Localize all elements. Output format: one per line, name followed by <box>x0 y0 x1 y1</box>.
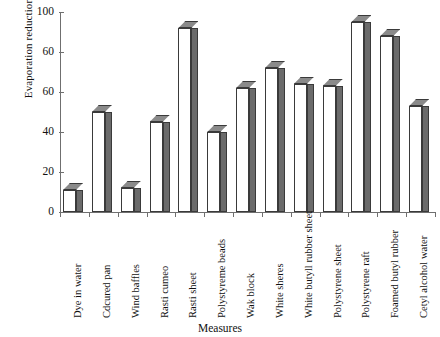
bar-side-face <box>76 190 83 212</box>
bar-front-face <box>236 88 249 212</box>
y-tick-label: 0 <box>24 206 54 218</box>
bar-top-face <box>121 181 141 188</box>
bar-side-face <box>105 112 112 212</box>
bar <box>294 84 307 212</box>
bar <box>409 106 422 212</box>
bar-front-face <box>265 68 278 212</box>
bar-side-face <box>364 22 371 212</box>
x-tick-mark <box>320 212 321 217</box>
bar-front-face <box>150 122 163 212</box>
bar-top-face <box>150 115 170 122</box>
x-tick-mark <box>291 212 292 217</box>
bar-side-face <box>307 84 314 212</box>
x-tick-mark <box>60 212 61 217</box>
y-tick-mark <box>59 172 64 173</box>
x-tick-mark <box>262 212 263 217</box>
x-tick-mark <box>435 212 436 217</box>
x-tick-mark <box>147 212 148 217</box>
x-category-label: Wind baffles <box>130 264 141 318</box>
bar-side-face <box>220 132 227 212</box>
bar-front-face <box>178 28 191 212</box>
bar-side-face <box>336 86 343 212</box>
bar-top-face <box>207 125 227 132</box>
x-tick-mark <box>348 212 349 217</box>
x-category-label: Rasti sheet <box>187 272 198 318</box>
bar-chart: Evaporation reduction % 100606040200 Dye… <box>0 0 440 337</box>
x-tick-mark <box>89 212 90 217</box>
bar <box>121 188 134 212</box>
bar-top-face <box>63 183 83 190</box>
bar <box>323 86 336 212</box>
bar-front-face <box>207 132 220 212</box>
bar-front-face <box>121 188 134 212</box>
bar-front-face <box>351 22 364 212</box>
x-category-label: Polystyrene sheet <box>332 244 343 318</box>
bar <box>63 190 76 212</box>
x-category-label: White butyll rubber sheet <box>303 211 314 318</box>
bar <box>92 112 105 212</box>
bar-front-face <box>63 190 76 212</box>
x-category-label: Wak block <box>245 273 256 318</box>
bar-top-face <box>178 21 198 28</box>
y-tick-mark <box>59 132 64 133</box>
x-category-label: Dye in water <box>72 264 83 318</box>
bar-side-face <box>134 188 141 212</box>
x-tick-mark <box>175 212 176 217</box>
y-tick-mark <box>59 12 64 13</box>
bar-top-face <box>236 81 256 88</box>
bar-side-face <box>191 28 198 212</box>
bar-top-face <box>323 79 343 86</box>
bar-side-face <box>278 68 285 212</box>
bar <box>380 36 393 212</box>
bar-front-face <box>409 106 422 212</box>
x-category-label: Foamed butyl rubber <box>389 230 400 318</box>
x-tick-mark <box>204 212 205 217</box>
bar <box>265 68 278 212</box>
x-axis-line <box>60 212 435 213</box>
bar <box>207 132 220 212</box>
bar <box>236 88 249 212</box>
bar-top-face <box>92 105 112 112</box>
bar <box>178 28 191 212</box>
bar <box>150 122 163 212</box>
x-category-label: Polystyreme beads <box>216 239 227 318</box>
bar-front-face <box>323 86 336 212</box>
x-category-label: Cdcured pan <box>101 265 112 318</box>
x-tick-mark <box>377 212 378 217</box>
bar-side-face <box>422 106 429 212</box>
x-axis-title: Measures <box>0 322 440 334</box>
bar-front-face <box>92 112 105 212</box>
bar-side-face <box>249 88 256 212</box>
y-tick-label: 20 <box>24 166 54 178</box>
plot-area: 100606040200 <box>60 12 435 212</box>
x-category-label: Cetyl alcohol water <box>418 236 429 318</box>
x-tick-mark <box>233 212 234 217</box>
x-category-label: Rasti cumeo <box>159 266 170 318</box>
y-axis-line <box>60 12 61 213</box>
y-tick-mark <box>59 52 64 53</box>
y-tick-mark <box>59 92 64 93</box>
y-tick-label: 60 <box>24 46 54 58</box>
bar-top-face <box>294 77 314 84</box>
bar-side-face <box>163 122 170 212</box>
y-tick-label: 100 <box>24 6 54 18</box>
bar-side-face <box>393 36 400 212</box>
bar-top-face <box>409 99 429 106</box>
bar-top-face <box>265 61 285 68</box>
x-tick-mark <box>118 212 119 217</box>
y-tick-label: 40 <box>24 126 54 138</box>
y-tick-label: 60 <box>24 86 54 98</box>
bar-front-face <box>294 84 307 212</box>
bar-top-face <box>380 29 400 36</box>
bar-front-face <box>380 36 393 212</box>
x-category-label: Polystyrene raft <box>360 251 371 318</box>
bar <box>351 22 364 212</box>
x-tick-mark <box>406 212 407 217</box>
bar-top-face <box>351 15 371 22</box>
y-axis-title: Evaporation reduction % <box>22 0 34 122</box>
x-category-label: White sheres <box>274 263 285 318</box>
